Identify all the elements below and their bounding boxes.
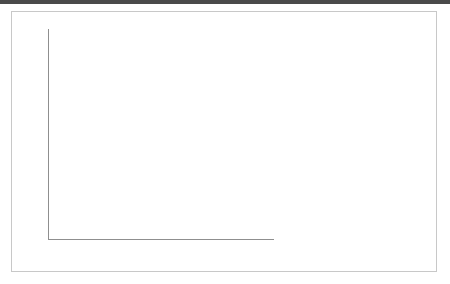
plot-area — [48, 29, 274, 239]
y-axis-labels — [12, 29, 45, 239]
page-top-strip — [0, 0, 450, 4]
gridline-0 — [48, 239, 274, 240]
chart-figure-panel — [11, 11, 437, 272]
plot-wrapper — [12, 12, 284, 271]
